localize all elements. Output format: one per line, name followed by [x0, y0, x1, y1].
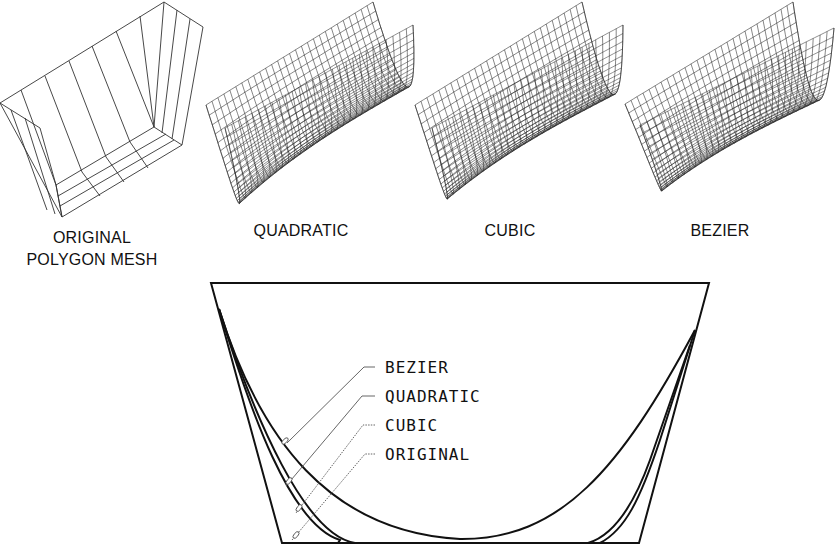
cubic-mesh — [415, 2, 623, 199]
section-label-original: ORIGINAL — [385, 445, 470, 464]
original-leader — [292, 454, 375, 540]
section-label-cubic: CUBIC — [385, 416, 438, 435]
section-label-quadratic: QUADRATIC — [385, 387, 481, 406]
cubic-label: CUBIC — [485, 222, 536, 239]
bezier-leader — [287, 367, 375, 443]
quadratic-leader — [286, 396, 375, 486]
original-label-line1: ORIGINAL — [53, 229, 131, 246]
subdivision-comparison-figure: ORIGINAL POLYGON MESH QUADRATIC CUBIC BE… — [0, 0, 837, 554]
quadratic-label: QUADRATIC — [254, 222, 349, 239]
quadratic-mesh — [206, 2, 414, 204]
cubic-leader — [296, 425, 375, 513]
cross-section-diagram: BEZIER QUADRATIC CUBIC ORIGINAL — [211, 283, 709, 543]
cubic-profile — [219, 309, 695, 543]
section-label-bezier: BEZIER — [385, 358, 449, 377]
quadratic-profile — [219, 309, 690, 543]
bezier-profile — [219, 309, 695, 539]
bezier-label: BEZIER — [691, 222, 750, 239]
original-label-line2: POLYGON MESH — [26, 251, 157, 268]
bezier-mesh — [625, 2, 834, 191]
original-polygon-mesh — [0, 2, 203, 217]
